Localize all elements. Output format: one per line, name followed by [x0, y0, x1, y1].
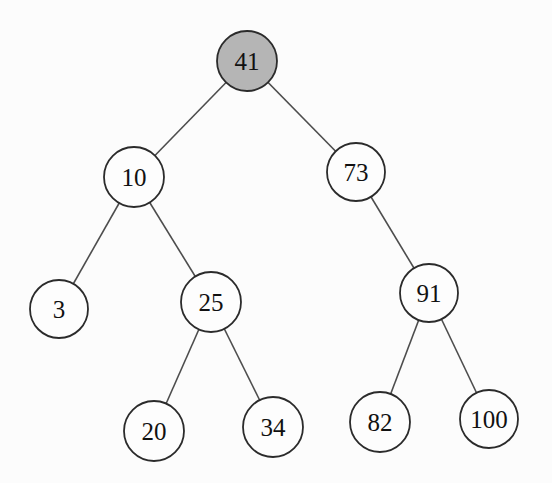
tree-node-82: 82	[350, 392, 410, 452]
tree-node-91: 91	[400, 264, 458, 322]
tree-node-34: 34	[243, 397, 303, 457]
tree-node-10: 10	[104, 147, 164, 207]
tree-node-25: 25	[181, 272, 241, 332]
binary-tree-diagram: 41107332591203482100	[0, 0, 552, 483]
tree-node-3: 3	[30, 280, 88, 338]
node-label: 25	[199, 289, 224, 316]
node-label: 82	[368, 409, 393, 436]
node-label: 100	[470, 406, 508, 433]
tree-node-73: 73	[327, 143, 385, 201]
tree-node-20: 20	[124, 401, 184, 461]
node-label: 41	[235, 48, 260, 75]
tree-node-41: 41	[217, 31, 277, 91]
node-label: 34	[261, 414, 287, 441]
node-label: 20	[142, 418, 167, 445]
node-label: 91	[417, 280, 442, 307]
tree-node-100: 100	[460, 390, 518, 448]
node-label: 10	[122, 164, 147, 191]
node-label: 3	[53, 296, 66, 323]
node-label: 73	[344, 159, 369, 186]
tree-svg: 41107332591203482100	[0, 0, 552, 483]
